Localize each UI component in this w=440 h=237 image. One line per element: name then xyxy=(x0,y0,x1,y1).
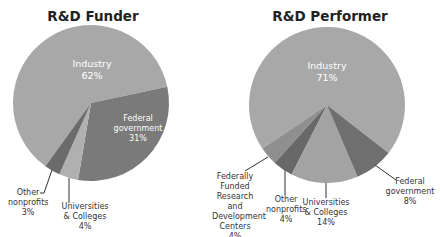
label-funder-federal: Federal government 31% xyxy=(103,114,173,144)
label-value: 31% xyxy=(103,134,173,144)
label-text: Federal xyxy=(103,114,173,124)
label-text: government xyxy=(103,124,173,134)
label-value: 8% xyxy=(385,197,435,207)
label-text: Federal xyxy=(385,177,435,187)
label-text: Funded xyxy=(212,182,258,192)
label-text: & Colleges xyxy=(60,212,110,222)
label-value: 14% xyxy=(301,218,351,228)
label-value: 71% xyxy=(297,72,357,84)
label-text: Centers 4% xyxy=(212,222,258,237)
label-performer-industry: Industry 71% xyxy=(297,60,357,84)
label-text: Other xyxy=(266,195,306,205)
label-funder-industry: Industry 62% xyxy=(62,58,122,82)
label-performer-federal: Federal government 8% xyxy=(385,177,435,207)
label-text: Development xyxy=(212,212,258,222)
label-text: nonprofits xyxy=(266,205,306,215)
label-value: 3% xyxy=(8,208,48,218)
pie-performer xyxy=(245,27,405,198)
label-text: government xyxy=(385,187,435,197)
label-text: Universities xyxy=(60,202,110,212)
label-text: Research and xyxy=(212,192,258,212)
label-performer-universities: Universities & Colleges 14% xyxy=(301,198,351,228)
label-text: nonprofits xyxy=(8,198,48,208)
label-performer-other: Other nonprofits 4% xyxy=(266,195,306,225)
leader-performer-ffrdc xyxy=(245,157,268,171)
label-text: & Colleges xyxy=(301,208,351,218)
label-text: Other xyxy=(8,188,48,198)
label-value: 4% xyxy=(60,222,110,232)
label-performer-ffrdc: Federally Funded Research and Developmen… xyxy=(212,172,258,237)
label-text: Universities xyxy=(301,198,351,208)
label-funder-other: Other nonprofits 3% xyxy=(8,188,48,218)
label-text: Industry xyxy=(297,60,357,72)
label-text: Federally xyxy=(212,172,258,182)
label-value: 62% xyxy=(62,70,122,82)
label-funder-universities: Universities & Colleges 4% xyxy=(60,202,110,232)
label-text: Industry xyxy=(62,58,122,70)
label-value: 4% xyxy=(266,215,306,225)
